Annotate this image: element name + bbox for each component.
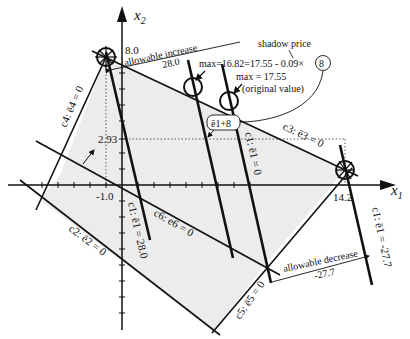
line-c1-decrease [340,145,372,285]
svg-text:28.0: 28.0 [161,56,180,70]
svg-text:-27.7: -27.7 [313,266,336,281]
allowable-decrease: allowable decrease -27.7 [272,247,369,282]
svg-text:max=16.82=17.55 - 0.09×: max=16.82=17.55 - 0.09× [199,58,304,69]
svg-text:(original value): (original value) [242,83,304,95]
svg-text:shadow price: shadow price [258,38,312,49]
x2-axis-label: x2 [133,7,146,26]
label-c1-decrease: c1: ē1 = -27.7 [370,206,395,269]
svg-text:max = 17.55: max = 17.55 [236,71,286,82]
tick-y-2-93: 2.93 [98,133,118,145]
svg-text:ē1+8: ē1+8 [211,118,231,129]
svg-text:8: 8 [319,58,324,69]
tick-x-neg1: -1.0 [96,190,114,202]
x1-axis-label: x1 [390,182,403,201]
lp-sensitivity-diagram: x1 x2 8.0 2.93 -1.0 14.2 [0,0,410,339]
tick-x-14-2: 14.2 [333,191,352,203]
